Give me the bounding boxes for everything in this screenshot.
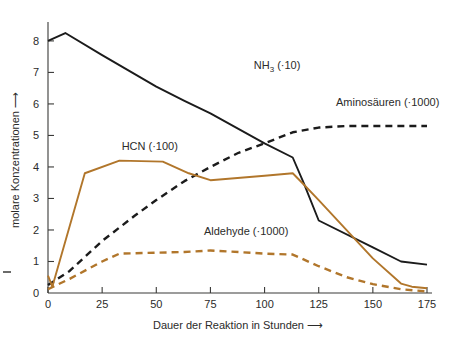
y-tick-label-5: 5 (33, 129, 39, 141)
x-tick-label-150: 150 (364, 298, 382, 310)
x-tick-label-125: 125 (310, 298, 328, 310)
y-tick-label-8: 8 (33, 35, 39, 47)
y-tick-label-2: 2 (33, 224, 39, 236)
x-axis-title: Dauer der Reaktion in Stunden ⟶ (153, 319, 323, 331)
y-tick-label-3: 3 (33, 192, 39, 204)
chart-figure: 0255075100125150175 012345678 NH3 (·10)A… (0, 0, 452, 348)
y-tick-label-6: 6 (33, 98, 39, 110)
x-tick-label-100: 100 (255, 298, 273, 310)
y-tick-label-4: 4 (33, 161, 39, 173)
x-tick-label-25: 25 (96, 298, 108, 310)
y-tick-label-1: 1 (33, 255, 39, 267)
chart-canvas: 0255075100125150175 012345678 NH3 (·10)A… (0, 0, 452, 348)
y-tick-labels: 012345678 (33, 35, 39, 299)
y-axis-title: molare Konzentrationen ⟶ (9, 92, 21, 228)
x-tick-label-0: 0 (45, 298, 51, 310)
x-tick-label-175: 175 (418, 298, 436, 310)
x-tick-label-50: 50 (150, 298, 162, 310)
annotation-aldehyde-label: Aldehyde (·1000) (204, 225, 288, 237)
y-tick-label-7: 7 (33, 66, 39, 78)
annotation-aminosaeuren-label: Aminosäuren (·1000) (336, 96, 439, 108)
chart-background (0, 0, 452, 348)
annotation-hcn-label: HCN (·100) (122, 140, 178, 152)
x-tick-label-75: 75 (204, 298, 216, 310)
y-tick-label-0: 0 (33, 287, 39, 299)
